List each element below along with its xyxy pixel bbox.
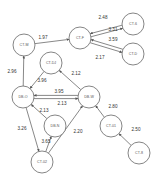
edge-weight-label: 2.48 (99, 15, 108, 20)
node-label: DB-W (84, 95, 94, 99)
edge-weight-label: 3.96 (38, 78, 47, 83)
node-label: DB-N (51, 124, 60, 128)
edge-weight-label: 1.97 (39, 35, 48, 40)
edge-ct-01-to-db-w (96, 106, 105, 117)
node-ct-8: CT-8 (128, 142, 150, 164)
node-ct-01: CT-01 (100, 115, 122, 137)
node-ct-d: CT-D (122, 43, 144, 65)
node-db-o: DB-O (12, 86, 34, 108)
node-ct-02: CT-02 (31, 151, 53, 173)
edge-ct-f-to-ct-6 (91, 28, 123, 36)
edge-arrow (26, 108, 39, 152)
node-label: CT-02 (37, 160, 47, 164)
edge-weight-label: 2.13 (40, 108, 49, 113)
edge-arrow (91, 28, 123, 36)
node-ct-dj: CT-DJ (40, 52, 62, 74)
node-label: CT-DJ (46, 61, 56, 65)
graph-diagram: CT-MCT-FCT-6CT-DCT-DJDB-ODB-WDB-NCT-02CT… (0, 0, 158, 183)
edge-weight-label: 2.80 (109, 104, 118, 109)
node-label: CT-8 (135, 151, 143, 155)
node-ct-m: CT-M (13, 34, 35, 56)
edge-weight-label: 2.20 (74, 129, 83, 134)
edge-weight-label: 2.12 (72, 71, 81, 76)
node-ct-6: CT-6 (122, 13, 144, 35)
edge-weight-label: 2.13 (58, 101, 67, 106)
edge-weight-label: 3.65 (42, 139, 51, 144)
edge-weight-label: 2.96 (8, 69, 17, 74)
edge-weight-label: 3.59 (109, 37, 118, 42)
edge-arrow (119, 134, 131, 146)
edge-weight-label: 3.31 (109, 27, 118, 32)
node-db-n: DB-N (44, 115, 66, 137)
node-label: CT-01 (106, 124, 116, 128)
edge-arrow (96, 106, 105, 117)
edge-weight-label: 3.95 (55, 89, 64, 94)
node-label: DB-O (19, 95, 28, 99)
edge-weight-label: 3.26 (18, 126, 27, 131)
edge-arrow (23, 56, 24, 86)
nodes-layer: CT-MCT-FCT-6CT-DCT-DJDB-ODB-WDB-NCT-02CT… (12, 13, 150, 173)
edge-db-o-to-ct-02 (26, 108, 39, 152)
node-label: CT-F (76, 36, 85, 40)
edge-weight-label: 2.17 (96, 55, 105, 60)
node-label: CT-D (129, 52, 138, 56)
edge-db-o-to-ct-m (23, 56, 24, 86)
node-ct-f: CT-F (69, 27, 91, 49)
node-label: CT-6 (129, 22, 137, 26)
edge-ct-8-to-ct-01 (119, 134, 131, 146)
node-label: CT-M (20, 43, 29, 47)
edge-weight-label: 2.50 (132, 127, 141, 132)
node-db-w: DB-W (78, 86, 100, 108)
